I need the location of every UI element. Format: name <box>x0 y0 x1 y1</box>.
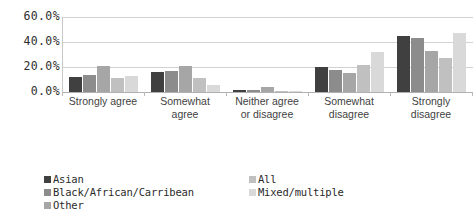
bar-groups <box>62 17 472 92</box>
bar <box>193 78 206 92</box>
bar <box>343 73 356 92</box>
x-axis-tick-mark <box>390 92 391 96</box>
x-axis-label: Stronglydisagree <box>390 95 472 131</box>
legend-item[interactable]: Other <box>44 199 194 212</box>
bar <box>111 78 124 92</box>
legend-label: Mixed/multiple <box>258 186 344 198</box>
x-axis-label: Neither agreeor disagree <box>226 95 308 131</box>
bar <box>179 66 192 92</box>
legend-swatch-icon <box>249 176 256 183</box>
x-axis-label-line: Somewhat <box>310 95 388 108</box>
legend-label: Other <box>53 199 84 211</box>
y-axis-tick-label: 60.0% <box>2 9 60 23</box>
bar-group <box>144 17 226 92</box>
legend-item[interactable]: Black/African/Carribean <box>44 186 194 199</box>
bar-group <box>308 17 390 92</box>
bar <box>233 90 246 92</box>
legend-column-right: AllMixed/multiple <box>249 173 344 199</box>
legend-item[interactable]: Mixed/multiple <box>249 186 344 199</box>
legend-swatch-icon <box>44 176 51 183</box>
bar <box>329 70 342 93</box>
bar <box>151 72 164 92</box>
x-axis-label-line: Neither agree <box>228 95 306 108</box>
x-axis-tick-mark <box>144 92 145 96</box>
x-axis-baseline <box>62 92 472 93</box>
x-axis-label: Strongly agree <box>62 95 144 131</box>
bar <box>357 65 370 93</box>
bar <box>289 91 302 92</box>
x-axis-labels: Strongly agreeSomewhatagreeNeither agree… <box>62 95 472 131</box>
legend-item[interactable]: All <box>249 173 344 186</box>
bar <box>207 85 220 93</box>
bar <box>315 67 328 92</box>
bar <box>261 87 274 92</box>
y-axis-tick-label: 0.0% <box>2 84 60 98</box>
x-axis-tick-mark <box>308 92 309 96</box>
x-axis-tick-mark <box>226 92 227 96</box>
legend-label: All <box>258 173 276 185</box>
legend-column-left: AsianBlack/African/CarribeanOther <box>44 173 194 212</box>
bar <box>371 52 384 92</box>
y-axis: 60.0%40.0%20.0%0.0% <box>0 0 60 92</box>
legend-swatch-icon <box>249 189 256 196</box>
bar <box>425 51 438 92</box>
chart-legend: AsianBlack/African/CarribeanOther AllMix… <box>44 173 464 215</box>
x-axis-label-line: disagree <box>392 108 470 121</box>
legend-swatch-icon <box>44 189 51 196</box>
y-axis-tick-label: 20.0% <box>2 59 60 73</box>
bar <box>69 77 82 92</box>
x-axis-label-line: or disagree <box>228 108 306 121</box>
bar <box>439 58 452 92</box>
x-axis-label-line: disagree <box>310 108 388 121</box>
bar <box>397 36 410 92</box>
x-axis-label: Somewhatagree <box>144 95 226 131</box>
x-axis-label-line: Strongly <box>392 95 470 108</box>
x-axis-tick-mark <box>472 92 473 96</box>
x-axis-label: Somewhatdisagree <box>308 95 390 131</box>
bar <box>125 76 138 92</box>
bar <box>247 90 260 93</box>
bar <box>411 38 424 92</box>
x-axis-tick-mark <box>62 92 63 96</box>
x-axis-label-line: agree <box>146 108 224 121</box>
bar <box>97 66 110 92</box>
bar <box>165 71 178 92</box>
x-axis-label-line: Somewhat <box>146 95 224 108</box>
y-axis-tick-label: 40.0% <box>2 34 60 48</box>
legend-label: Asian <box>53 173 84 185</box>
legend-swatch-icon <box>44 202 51 209</box>
bar-group <box>390 17 472 92</box>
legend-label: Black/African/Carribean <box>53 186 194 198</box>
x-axis-label-line: Strongly agree <box>64 95 142 108</box>
bar <box>275 91 288 92</box>
bar-chart: 60.0%40.0%20.0%0.0% Strongly agreeSomewh… <box>0 0 476 217</box>
bar <box>453 33 466 92</box>
bar-group <box>226 17 308 92</box>
bar <box>83 75 96 93</box>
bar-group <box>62 17 144 92</box>
legend-item[interactable]: Asian <box>44 173 194 186</box>
